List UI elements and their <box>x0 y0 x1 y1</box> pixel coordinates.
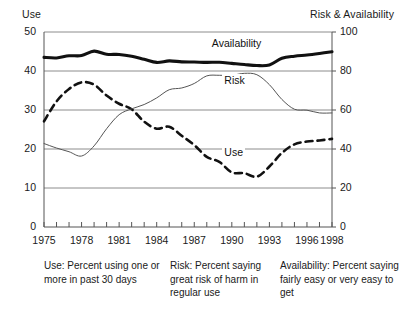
x-axis-tick-label: 1978 <box>65 234 99 246</box>
series-line-use <box>44 82 332 177</box>
x-axis-tick-label: 1998 <box>315 234 349 246</box>
chart-figure: Use Risk & Availability 0102030405002040… <box>0 0 402 316</box>
y-axis-tick-label: 40 <box>14 64 36 76</box>
y2-axis-tick-label: 20 <box>340 181 366 193</box>
x-axis-tick-label: 1981 <box>102 234 136 246</box>
y2-axis-tick-label: 40 <box>340 142 366 154</box>
caption-use: Use: Percent using one or more in past 3… <box>44 259 170 286</box>
y2-axis-tick-label: 0 <box>340 220 366 232</box>
series-label-risk: Risk <box>222 74 246 86</box>
series-label-use: Use <box>222 146 245 158</box>
y-axis-tick-label: 20 <box>14 142 36 154</box>
caption-risk: Risk: Percent saying great risk of harm … <box>170 259 280 300</box>
series-label-availability: Availability <box>210 37 263 49</box>
y2-axis-tick-label: 100 <box>340 25 366 37</box>
x-axis-tick-label: 1993 <box>252 234 286 246</box>
x-axis-tick-label: 1984 <box>140 234 174 246</box>
x-axis-tick-label: 1990 <box>215 234 249 246</box>
series-line-availability <box>44 51 332 66</box>
y-axis-tick-label: 50 <box>14 25 36 37</box>
x-axis-tick-label: 1975 <box>27 234 61 246</box>
y-axis-tick-label: 0 <box>14 220 36 232</box>
chart-canvas <box>0 0 402 250</box>
y2-axis-tick-label: 60 <box>340 103 366 115</box>
plot-area: 0102030405002040608010019751978198119841… <box>0 0 402 250</box>
series-line-risk <box>44 73 332 156</box>
x-axis-tick-label: 1987 <box>177 234 211 246</box>
caption-availability: Availability: Percent saying fairly easy… <box>280 259 400 300</box>
chart-captions: Use: Percent using one or more in past 3… <box>0 259 402 316</box>
y2-axis-tick-label: 80 <box>340 64 366 76</box>
y-axis-tick-label: 30 <box>14 103 36 115</box>
y-axis-tick-label: 10 <box>14 181 36 193</box>
